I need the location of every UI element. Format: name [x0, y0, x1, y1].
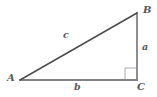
vertex-label-c: C [137, 82, 145, 92]
vertex-label-b: B [143, 5, 151, 15]
side-label-a: a [142, 42, 148, 52]
side-label-b: b [74, 82, 81, 92]
right-triangle-figure: A B C a b c [0, 0, 157, 97]
vertex-label-a: A [7, 73, 15, 83]
side-label-c: c [63, 30, 69, 40]
